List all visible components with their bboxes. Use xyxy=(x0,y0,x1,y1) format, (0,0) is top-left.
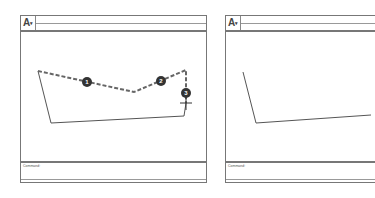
polyline-selected[interactable] xyxy=(38,70,186,103)
crosshair-cursor-icon xyxy=(180,98,192,110)
polyline-result[interactable] xyxy=(243,72,371,123)
selection-marker-1: 1 xyxy=(82,77,92,87)
selection-marker-3: 3 xyxy=(181,88,191,98)
selection-marker-2: 2 xyxy=(156,76,166,86)
